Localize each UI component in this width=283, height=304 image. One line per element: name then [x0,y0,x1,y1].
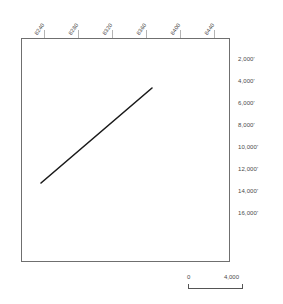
depth-tick-label: 6,000' [238,100,255,106]
depth-tick-label: 16,000' [238,210,258,216]
depth-tick-label: 8,000' [238,122,255,128]
depth-tick-label: 2,000' [238,56,255,62]
scale-bar-tick-right [242,284,243,289]
depth-tick-label: 12,000' [238,166,258,172]
cross-section-figure: 8240 8280 8320 8360 8400 8440 2,000' 4,0… [0,0,283,304]
scale-bar-max-label: 4,000 [224,274,239,280]
trend-line-segment [41,88,152,183]
depth-tick-label: 10,000' [238,144,258,150]
scale-bar-line [188,288,243,289]
depth-tick-label: 14,000' [238,188,258,194]
scale-bar-min-label: 0 [187,274,190,280]
trend-line [21,38,230,262]
scale-bar-graphic [188,284,243,289]
depth-tick-label: 4,000' [238,78,255,84]
